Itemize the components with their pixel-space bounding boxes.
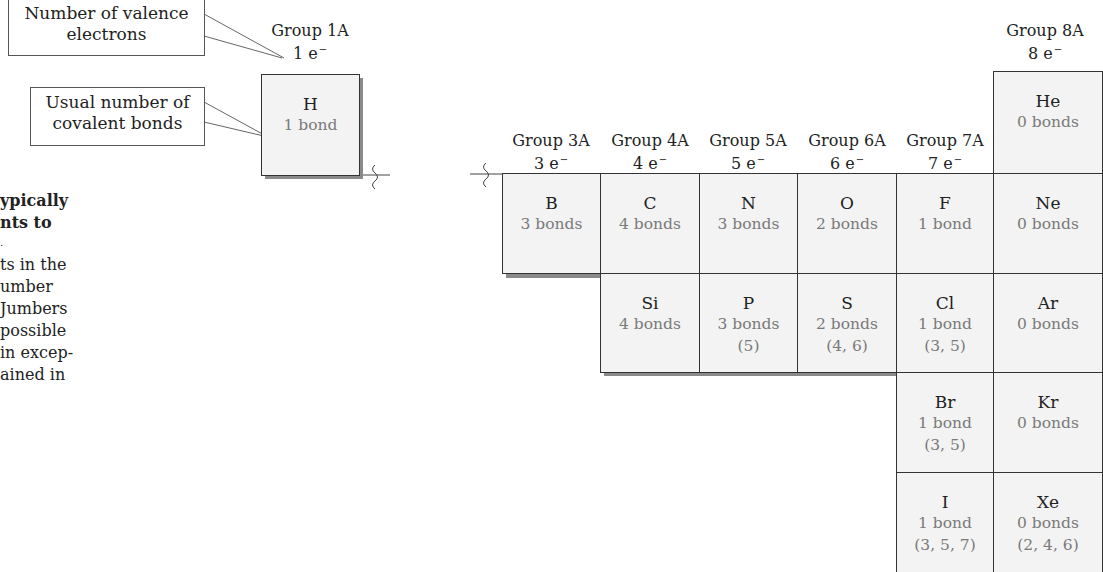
element-symbol: Cl — [897, 293, 993, 313]
element-cell-s: S 2 bonds (4, 6) — [797, 273, 897, 373]
element-alt-bonds: (2, 4, 6) — [994, 534, 1102, 556]
group-header-4a: Group 4A 4 e− — [599, 131, 701, 173]
element-alt-bonds: (3, 5) — [897, 335, 993, 357]
shadow — [506, 274, 600, 278]
element-symbol: N — [700, 193, 797, 213]
group-label: Group 5A — [697, 131, 799, 150]
group-electrons: 1 e− — [255, 40, 365, 63]
element-alt-bonds: (4, 6) — [798, 335, 896, 357]
element-alt-bonds: (5) — [700, 335, 797, 357]
callout-covalent-bonds: Usual number of covalent bonds — [30, 87, 205, 146]
element-cell-cl: Cl 1 bond (3, 5) — [896, 273, 994, 373]
break-mark-icon — [373, 165, 378, 189]
callout-text: electrons — [9, 24, 204, 45]
element-symbol: I — [897, 492, 993, 512]
element-bonds: 1 bond — [262, 114, 359, 136]
element-cell-c: C 4 bonds — [600, 173, 700, 274]
element-cell-he: He 0 bonds — [993, 71, 1103, 174]
element-symbol: Ar — [994, 293, 1102, 313]
element-bonds: 3 bonds — [503, 213, 600, 235]
group-electrons: 3 e− — [500, 150, 602, 173]
element-symbol: Br — [897, 392, 993, 412]
element-symbol: Xe — [994, 492, 1102, 512]
element-bonds: 1 bond — [897, 313, 993, 335]
element-symbol: B — [503, 193, 600, 213]
element-bonds: 0 bonds — [994, 412, 1102, 434]
element-cell-i: I 1 bond (3, 5, 7) — [896, 472, 994, 572]
element-alt-bonds: (3, 5, 7) — [897, 534, 993, 556]
group-header-5a: Group 5A 5 e− — [697, 131, 799, 173]
group-label: Group 1A — [255, 21, 365, 40]
element-alt-bonds: (3, 5) — [897, 434, 993, 456]
element-cell-br: Br 1 bond (3, 5) — [896, 372, 994, 473]
element-cell-ne: Ne 0 bonds — [993, 173, 1103, 274]
element-cell-si: Si 4 bonds — [600, 273, 700, 373]
callout-valence-electrons: Number of valence electrons — [8, 0, 205, 56]
element-symbol: F — [897, 193, 993, 213]
element-cell-f: F 1 bond — [896, 173, 994, 274]
group-label: Group 6A — [796, 131, 898, 150]
element-bonds: 0 bonds — [994, 313, 1102, 335]
group-header-1a: Group 1A 1 e− — [255, 21, 365, 63]
element-bonds: 3 bonds — [700, 313, 797, 335]
break-mark-icon — [484, 163, 489, 187]
element-symbol: O — [798, 193, 896, 213]
element-bonds: 0 bonds — [994, 512, 1102, 534]
element-cell-b: B 3 bonds — [502, 173, 601, 274]
element-symbol: S — [798, 293, 896, 313]
group-electrons: 4 e− — [599, 150, 701, 173]
callout-text: Number of valence — [9, 3, 204, 24]
element-bonds: 0 bonds — [994, 111, 1102, 133]
callout-text: Usual number of — [31, 92, 204, 113]
element-bonds: 1 bond — [897, 512, 993, 534]
element-bonds: 2 bonds — [798, 213, 896, 235]
element-bonds: 1 bond — [897, 412, 993, 434]
group-electrons: 7 e− — [894, 150, 996, 173]
callout-text: covalent bonds — [31, 113, 204, 134]
group-header-8a: Group 8A 8 e− — [993, 21, 1097, 63]
group-label: Group 8A — [993, 21, 1097, 40]
element-bonds: 4 bonds — [601, 313, 699, 335]
element-bonds: 1 bond — [897, 213, 993, 235]
group-header-7a: Group 7A 7 e− — [894, 131, 996, 173]
element-cell-ar: Ar 0 bonds — [993, 273, 1103, 373]
element-cell-n: N 3 bonds — [699, 173, 798, 274]
element-bonds: 0 bonds — [994, 213, 1102, 235]
element-symbol: Si — [601, 293, 699, 313]
group-electrons: 6 e− — [796, 150, 898, 173]
element-cell-h: H 1 bond — [261, 74, 360, 176]
element-symbol: He — [994, 91, 1102, 111]
group-electrons: 8 e− — [993, 40, 1097, 63]
element-cell-kr: Kr 0 bonds — [993, 372, 1103, 473]
element-cell-o: O 2 bonds — [797, 173, 897, 274]
element-bonds: 3 bonds — [700, 213, 797, 235]
element-cell-p: P 3 bonds (5) — [699, 273, 798, 373]
element-symbol: P — [700, 293, 797, 313]
element-symbol: Ne — [994, 193, 1102, 213]
element-cell-xe: Xe 0 bonds (2, 4, 6) — [993, 472, 1103, 572]
group-electrons: 5 e− — [697, 150, 799, 173]
group-header-6a: Group 6A 6 e− — [796, 131, 898, 173]
group-label: Group 4A — [599, 131, 701, 150]
group-header-3a: Group 3A 3 e− — [500, 131, 602, 173]
element-bonds: 4 bonds — [601, 213, 699, 235]
element-symbol: C — [601, 193, 699, 213]
element-symbol: Kr — [994, 392, 1102, 412]
group-label: Group 3A — [500, 131, 602, 150]
element-bonds: 2 bonds — [798, 313, 896, 335]
group-label: Group 7A — [894, 131, 996, 150]
element-symbol: H — [262, 94, 359, 114]
